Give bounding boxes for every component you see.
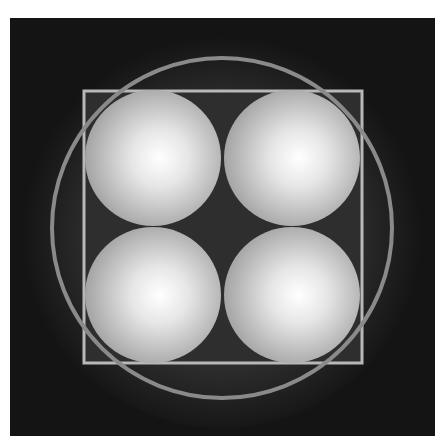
sphere-top-left — [85, 90, 221, 226]
sphere-top-right — [224, 90, 360, 226]
sphere-bottom-left — [85, 227, 221, 363]
circle-packing-diagram — [0, 0, 444, 436]
sphere-bottom-right — [224, 227, 360, 363]
diagram-canvas — [0, 0, 444, 436]
